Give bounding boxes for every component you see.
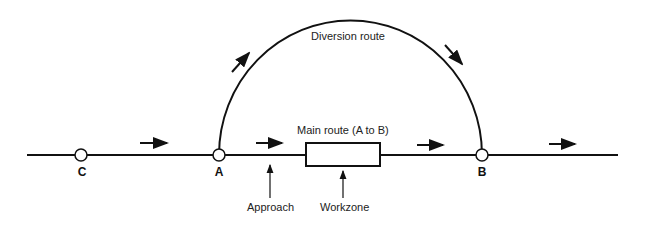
node-a <box>213 149 225 161</box>
diversion-route-label: Diversion route <box>311 30 385 42</box>
workzone-label: Workzone <box>320 201 369 213</box>
node-b <box>476 149 488 161</box>
approach-label: Approach <box>247 201 294 213</box>
diversion-arrow-icon <box>445 45 462 64</box>
node-c <box>75 149 87 161</box>
workzone-box <box>306 143 380 166</box>
main-route-label: Main route (A to B) <box>297 124 389 136</box>
node-b-label: B <box>478 165 487 179</box>
node-c-label: C <box>78 165 87 179</box>
diversion-arrow-icon <box>232 53 249 72</box>
node-a-label: A <box>215 165 224 179</box>
